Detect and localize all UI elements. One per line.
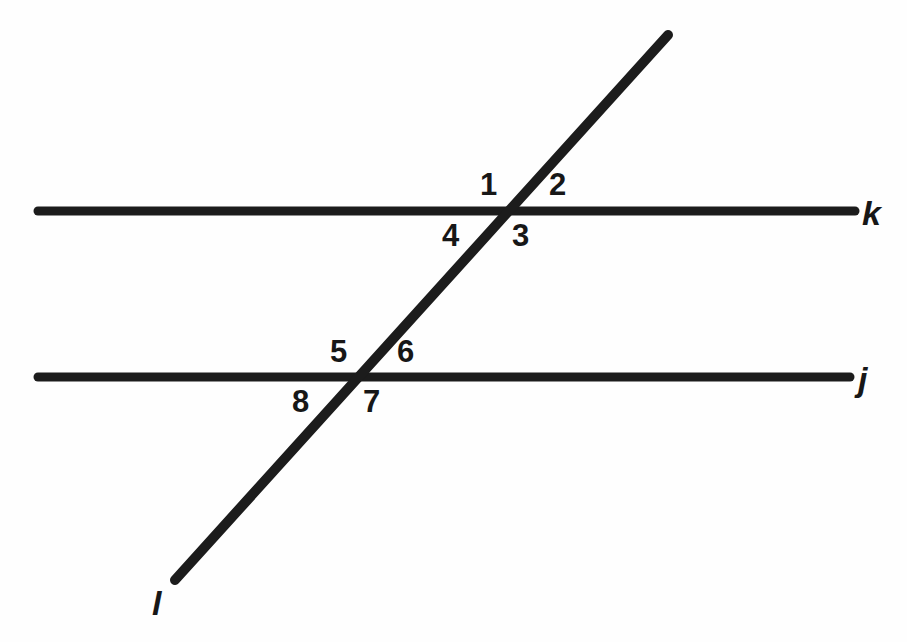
diagram-background — [0, 0, 907, 642]
angle-label-1: 1 — [480, 169, 497, 200]
line-label-l: l — [152, 586, 161, 620]
angle-label-7: 7 — [363, 386, 380, 417]
angle-label-6: 6 — [397, 336, 414, 367]
angle-label-3: 3 — [512, 220, 529, 251]
line-label-k: k — [862, 196, 881, 230]
angle-label-5: 5 — [330, 336, 347, 367]
angle-label-4: 4 — [442, 220, 459, 251]
line-label-j: j — [858, 362, 867, 396]
angle-label-2: 2 — [549, 169, 566, 200]
angle-label-8: 8 — [292, 386, 309, 417]
diagram-canvas — [0, 0, 907, 642]
geometry-diagram: 1 2 3 4 5 6 7 8 k j l — [0, 0, 907, 642]
